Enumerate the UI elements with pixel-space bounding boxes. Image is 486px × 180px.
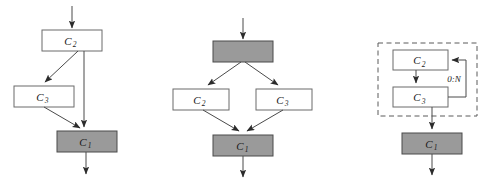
node-d3-c2-subscript: 2 — [422, 60, 426, 69]
node-d3-c2-label: C — [413, 54, 421, 66]
diagram-sequence-skip: C 2 C 3 C 1 — [14, 6, 117, 174]
node-d2-c3-subscript: 3 — [284, 99, 289, 108]
node-d1-c3[interactable]: C 3 — [14, 86, 74, 107]
diagram-parallel-branch: C 2 C 3 C 1 — [173, 18, 312, 177]
edge-d2-top-c2 — [208, 62, 241, 85]
edge-d1-c3-c1 — [44, 107, 80, 128]
node-d1-c1[interactable]: C 1 — [57, 131, 117, 152]
node-d3-c3-subscript: 3 — [421, 97, 426, 106]
diagram-loop-group: C 2 C 3 0:N C 1 — [378, 43, 477, 175]
node-d1-c1-subscript: 1 — [88, 141, 92, 150]
node-d2-c2[interactable]: C 2 — [173, 89, 229, 110]
edge-d2-c3-c1 — [247, 110, 283, 131]
node-d2-c1-subscript: 1 — [245, 145, 249, 154]
node-d2-top[interactable] — [213, 41, 273, 62]
node-d3-c1[interactable]: C 1 — [402, 133, 462, 154]
edge-d1-c2-c3 — [45, 51, 78, 82]
node-d1-c3-label: C — [36, 91, 44, 103]
node-d3-c2[interactable]: C 2 — [393, 50, 448, 70]
diagram-canvas: C 2 C 3 C 1 — [0, 0, 486, 180]
node-d2-c3-label: C — [276, 94, 284, 106]
edge-d2-top-c3 — [245, 62, 278, 85]
node-d1-c1-label: C — [79, 136, 87, 148]
node-d2-c3[interactable]: C 3 — [256, 89, 312, 110]
figure-root: C 2 C 3 C 1 — [0, 0, 486, 180]
node-d3-c3-label: C — [413, 91, 421, 103]
node-d1-c3-subscript: 3 — [44, 96, 49, 105]
node-d2-c2-subscript: 2 — [202, 99, 206, 108]
node-d2-c1[interactable]: C 1 — [213, 135, 273, 156]
node-d1-c2[interactable]: C 2 — [42, 30, 102, 51]
node-d2-top-shape — [213, 41, 273, 62]
node-d3-c1-subscript: 1 — [434, 143, 438, 152]
node-d1-c2-subscript: 2 — [73, 40, 77, 49]
edge-d3-loop-label: 0:N — [447, 74, 461, 84]
node-d2-c1-label: C — [236, 140, 244, 152]
node-d3-c3[interactable]: C 3 — [393, 87, 448, 107]
edge-d2-c2-c1 — [203, 110, 239, 131]
node-d3-c1-label: C — [425, 138, 433, 150]
node-d1-c2-label: C — [64, 35, 72, 47]
node-d2-c2-label: C — [193, 94, 201, 106]
